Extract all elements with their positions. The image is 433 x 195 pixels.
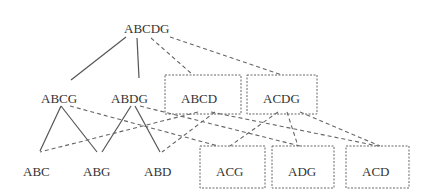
edge-ACDG-ACD	[300, 112, 380, 146]
edge-ABCDG-ABCD	[151, 38, 193, 75]
edge-ABDG-ADG	[140, 106, 300, 146]
edge-ABDG-ABD	[135, 106, 160, 152]
node-ABDG: ABDG	[111, 91, 148, 106]
node-ABCD: ABCD	[181, 91, 217, 106]
node-ADG: ADG	[288, 164, 316, 179]
edge-ABCDG-ABCG	[71, 37, 126, 80]
edge-ABCDG-ACDG	[170, 37, 282, 75]
node-ABCG: ABCG	[41, 91, 77, 106]
edge-ABCG-ABC	[40, 106, 61, 151]
node-ABG: ABG	[83, 164, 110, 179]
edge-ACDG-ACG	[230, 112, 278, 146]
diagram-svg: ABCDG ABCG ABDG ABCD ACDG ABC ABG ABD AC…	[0, 0, 433, 195]
edge-ABCD-ACD	[211, 112, 378, 146]
edge-ABCD-ABC	[40, 112, 198, 152]
node-ABC: ABC	[23, 164, 50, 179]
node-ACG: ACG	[216, 164, 243, 179]
node-ACDG: ACDG	[263, 91, 300, 106]
edge-ABDG-ABG	[102, 106, 131, 152]
lattice-diagram: ABCDG ABCG ABDG ABCD ACDG ABC ABG ABD AC…	[0, 0, 433, 195]
node-ABCDG: ABCDG	[124, 21, 170, 36]
edge-ABCDG-ABDG	[137, 38, 139, 78]
node-ACD: ACD	[362, 164, 389, 179]
node-ABD: ABD	[144, 164, 171, 179]
